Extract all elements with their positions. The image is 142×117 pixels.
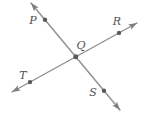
point-Q-label: Q xyxy=(76,39,85,52)
point-S-label: S xyxy=(89,86,97,99)
point-T-label: T xyxy=(19,69,28,82)
geometry-diagram: P Q R S T xyxy=(0,0,142,117)
point-dots xyxy=(28,18,121,93)
point-Q-dot xyxy=(73,54,78,59)
point-P-label: P xyxy=(28,14,37,27)
point-labels: P Q R S T xyxy=(19,14,121,99)
point-R-dot xyxy=(117,31,121,35)
point-S-dot xyxy=(102,89,106,93)
point-R-label: R xyxy=(112,15,121,28)
arrow-up-right-icon xyxy=(128,20,138,29)
point-P-dot xyxy=(43,18,47,22)
diagram-canvas: P Q R S T xyxy=(0,0,142,117)
point-T-dot xyxy=(28,80,32,84)
arrow-down-left-icon xyxy=(11,85,21,94)
